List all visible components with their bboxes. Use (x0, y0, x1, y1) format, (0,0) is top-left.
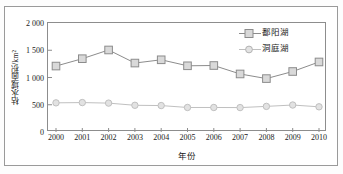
legend-circle-marker-icon (239, 41, 261, 52)
x-axis-title: 年份 (47, 149, 326, 161)
x-axis-tick-label: 2004 (153, 133, 169, 142)
legend-label-dongting: 洞庭湖 (262, 41, 289, 53)
x-axis-tick-label: 2003 (127, 133, 143, 142)
legend-square-marker-icon (239, 25, 261, 36)
y-axis-tick-label: 500 (32, 100, 44, 109)
x-axis-tick-label: 2008 (258, 133, 274, 142)
chart-legend: 鄱阳湖 洞庭湖 (239, 25, 289, 52)
legend-item-poyang: 鄱阳湖 (239, 25, 289, 36)
legend-item-dongting: 洞庭湖 (239, 41, 289, 52)
x-axis-tick-label: 2000 (48, 133, 64, 142)
y-axis-tick-label: 2 000 (26, 19, 44, 28)
x-axis-tick-label: 2009 (285, 133, 301, 142)
x-axis-tick-label: 2002 (101, 133, 117, 142)
x-axis-tick-label: 2006 (206, 133, 222, 142)
x-axis-tick-label: 2001 (74, 133, 90, 142)
y-axis-tick-label: 1 000 (26, 73, 44, 82)
x-axis-tick-label: 2005 (180, 133, 196, 142)
y-axis-title: 枯水域面积/km² (9, 30, 23, 126)
chart-figure: 枯水域面积/km² 05001 0001 5002 00020002001200… (0, 0, 343, 174)
x-axis-tick-label: 2007 (232, 133, 248, 142)
y-axis-tick-label: 1 500 (26, 46, 44, 55)
legend-label-poyang: 鄱阳湖 (262, 25, 289, 37)
x-axis-tick-label: 2010 (311, 133, 327, 142)
y-axis-tick-label: 0 (40, 128, 44, 137)
